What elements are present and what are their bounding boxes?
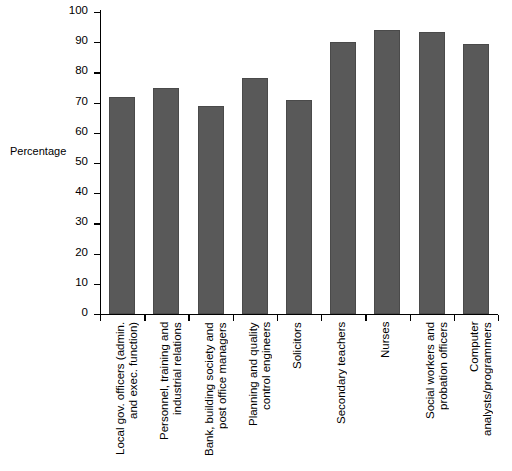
y-tick-mark <box>94 72 100 73</box>
bar <box>286 100 312 314</box>
x-tick-mark <box>454 315 455 321</box>
x-tick-mark <box>321 315 322 321</box>
x-tick-mark <box>144 315 145 321</box>
x-tick-mark <box>233 315 234 321</box>
x-tick-mark <box>277 315 278 321</box>
x-axis-line <box>100 314 498 315</box>
bar <box>198 106 224 314</box>
x-tick-label: Personnel, training and industrial relat… <box>158 322 184 464</box>
x-tick-mark <box>498 315 499 321</box>
y-tick-mark <box>94 284 100 285</box>
x-tick-mark <box>100 315 101 321</box>
y-axis-line <box>100 10 101 316</box>
bar-chart: Percentage 0102030405060708090100 Local … <box>0 0 512 471</box>
x-tick-mark <box>188 315 189 321</box>
x-tick-label: Social workers and probation officers <box>424 322 450 464</box>
bar <box>419 32 445 314</box>
bar <box>109 97 135 314</box>
y-tick-mark <box>94 163 100 164</box>
bar <box>153 88 179 315</box>
x-tick-label: Computer analysts/programmers <box>468 322 494 464</box>
x-tick-label: Secondary teachers <box>335 322 348 464</box>
y-tick-mark <box>94 133 100 134</box>
x-tick-mark <box>365 315 366 321</box>
y-tick-mark <box>94 193 100 194</box>
y-tick-mark <box>94 223 100 224</box>
x-tick-label: Planning and quality control engineers <box>247 322 273 464</box>
y-tick-mark <box>94 103 100 104</box>
x-tick-label: Solicitors <box>291 322 304 464</box>
bar <box>374 30 400 314</box>
y-axis-title: Percentage <box>10 145 66 157</box>
x-tick-label: Bank, building society and post office m… <box>203 322 229 464</box>
bar <box>463 44 489 314</box>
x-tick-mark <box>410 315 411 321</box>
y-tick-mark <box>94 254 100 255</box>
bar <box>242 78 268 314</box>
y-tick-mark <box>94 12 100 13</box>
x-tick-label: Nurses <box>379 322 392 464</box>
bar <box>330 42 356 314</box>
y-tick-mark <box>94 42 100 43</box>
x-tick-label: Local gov. officers (admin. and exec. fu… <box>114 322 140 464</box>
